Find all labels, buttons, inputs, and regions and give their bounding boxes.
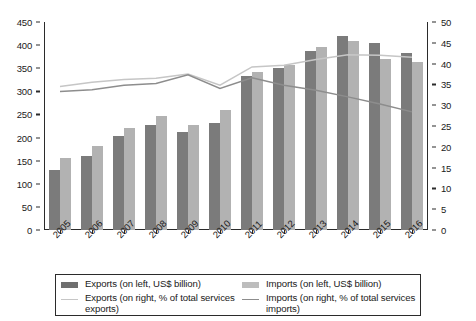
left-axis-tick-mark: [36, 183, 40, 184]
left-axis-tick-label: 200: [17, 133, 32, 143]
left-axis-tick-mark: [36, 160, 40, 161]
legend-label-exports-line: Exports (on right, % of total services e…: [85, 292, 239, 314]
left-axis-tick-mark: [36, 206, 40, 207]
plot-area: [44, 22, 428, 230]
left-axis-tick-mark: [36, 114, 40, 115]
left-axis-tick-label: 150: [17, 156, 32, 166]
legend-swatch-imports-bar: [242, 282, 259, 288]
right-axis-tick-mark: [432, 146, 436, 147]
right-axis-tick-mark: [432, 188, 436, 189]
right-axis-tick-label: 5: [441, 205, 446, 215]
chart-page: 050100150200250300350400450 051015202530…: [0, 0, 476, 321]
right-axis-tick-mark: [432, 126, 436, 127]
right-axis-tick-mark: [432, 167, 436, 168]
left-axis-tick-label: 100: [17, 179, 32, 189]
legend-swatch-imports-line: [242, 299, 259, 300]
left-axis-tick-mark: [36, 22, 40, 23]
right-axis-tick-label: 40: [441, 59, 451, 69]
right-axis-tick-label: 15: [441, 163, 451, 173]
left-value-axis: 050100150200250300350400450: [0, 22, 40, 230]
legend-label-exports-bar: Exports (on left, US$ billion): [85, 278, 201, 289]
right-axis-tick-mark: [432, 84, 436, 85]
right-axis-tick-label: 35: [441, 80, 451, 90]
right-axis-tick-mark: [432, 209, 436, 210]
right-percent-axis: 05101520253035404550: [432, 22, 472, 230]
right-axis-tick-label: 50: [441, 18, 451, 28]
legend-item-exports-line: Exports (on right, % of total services e…: [61, 292, 239, 314]
left-axis-tick-label: 350: [17, 64, 32, 74]
legend-column-left: Exports (on left, US$ billion) Exports (…: [61, 278, 239, 316]
left-axis-tick-label: 300: [17, 87, 32, 97]
left-axis-tick-mark: [36, 45, 40, 46]
left-axis-tick-label: 400: [17, 41, 32, 51]
right-axis-tick-label: 20: [441, 142, 451, 152]
right-axis-tick-label: 25: [441, 122, 451, 132]
line-exports-percent: [60, 55, 412, 87]
left-axis-tick-mark: [36, 68, 40, 69]
legend-label-imports-line: Imports (on right, % of total services i…: [266, 292, 420, 314]
legend-item-exports-bar: Exports (on left, US$ billion): [61, 278, 239, 290]
left-axis-tick-mark: [36, 230, 40, 231]
legend-item-imports-line: Imports (on right, % of total services i…: [242, 292, 420, 314]
left-axis-tick-label: 0: [27, 226, 32, 236]
left-axis-tick-mark: [36, 91, 40, 92]
left-axis-tick-mark: [36, 137, 40, 138]
legend-label-imports-bar: Imports (on left, US$ billion): [266, 278, 381, 289]
category-axis: 2005200620072008200920102011201220132014…: [44, 231, 428, 273]
right-axis-tick-label: 0: [441, 226, 446, 236]
right-axis-tick-mark: [432, 230, 436, 231]
left-axis-tick-label: 50: [22, 202, 32, 212]
chart-legend: Exports (on left, US$ billion) Exports (…: [55, 274, 421, 316]
right-axis-tick-label: 30: [441, 101, 451, 111]
right-axis-tick-mark: [432, 63, 436, 64]
right-axis-tick-mark: [432, 22, 436, 23]
left-axis-tick-label: 250: [17, 110, 32, 120]
legend-column-right: Imports (on left, US$ billion) Imports (…: [242, 278, 420, 316]
right-axis-tick-label: 10: [441, 184, 451, 194]
line-series-container: [44, 22, 428, 230]
legend-item-imports-bar: Imports (on left, US$ billion): [242, 278, 420, 290]
right-axis-tick-mark: [432, 42, 436, 43]
right-axis-tick-mark: [432, 105, 436, 106]
legend-swatch-exports-bar: [61, 282, 78, 288]
legend-swatch-exports-line: [61, 299, 78, 300]
left-axis-tick-label: 450: [17, 18, 32, 28]
right-axis-tick-label: 45: [441, 38, 451, 48]
